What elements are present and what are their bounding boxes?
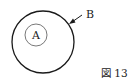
label-a: A: [31, 29, 41, 42]
figure: A B 図 13: [0, 0, 130, 83]
arrowhead-icon: [69, 19, 76, 25]
outer-circle-b: [12, 11, 74, 73]
figure-caption: 図 13: [101, 67, 128, 79]
label-b: B: [86, 8, 94, 21]
